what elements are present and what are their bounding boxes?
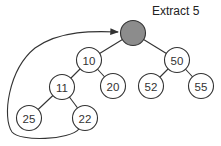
node-label: 11 bbox=[56, 82, 68, 94]
heap-diagram: 1050112052552522 bbox=[0, 0, 221, 146]
extracted-root-node bbox=[121, 21, 146, 46]
heap-node-52: 52 bbox=[139, 74, 164, 99]
heap-node-11: 11 bbox=[50, 75, 75, 100]
heap-node-50: 50 bbox=[165, 48, 190, 73]
heap-node-55: 55 bbox=[189, 74, 214, 99]
heap-node-10: 10 bbox=[77, 48, 102, 73]
node-label: 10 bbox=[83, 55, 96, 67]
nodes: 1050112052552522 bbox=[17, 21, 214, 131]
heap-node-25: 25 bbox=[17, 106, 42, 131]
node-label: 25 bbox=[23, 113, 36, 125]
node-label: 55 bbox=[195, 81, 208, 93]
node-label: 50 bbox=[171, 55, 184, 67]
node-label: 52 bbox=[145, 81, 158, 93]
node-label: 20 bbox=[107, 81, 120, 93]
heap-node-22: 22 bbox=[73, 106, 98, 131]
heap-node-20: 20 bbox=[101, 74, 126, 99]
node-label: 22 bbox=[79, 113, 92, 125]
